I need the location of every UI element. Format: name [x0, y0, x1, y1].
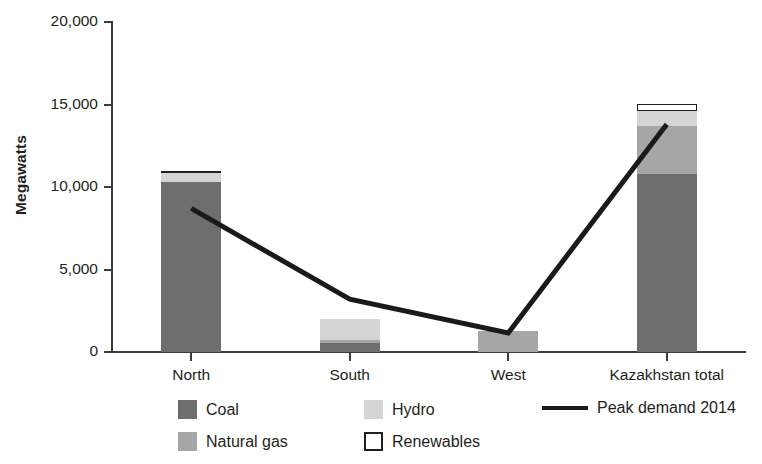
legend-swatch-hydro-icon: [364, 400, 383, 419]
legend-item-natural-gas: Natural gas: [178, 432, 288, 451]
peak-demand-line: [191, 124, 667, 333]
legend-item-peak-demand: Peak demand 2014: [542, 400, 736, 416]
legend-label-natural-gas: Natural gas: [206, 434, 288, 450]
y-axis-title: Megawatts: [12, 110, 30, 240]
bar-segment-renewables: [161, 171, 221, 173]
legend-label-hydro: Hydro: [392, 402, 435, 418]
bar-segment-natural-gas: [320, 340, 380, 343]
bar-segment-hydro: [637, 111, 697, 126]
y-axis-tick-mark: [104, 269, 113, 271]
bar-segment-hydro: [161, 173, 221, 182]
y-axis-tick-mark: [104, 186, 113, 188]
legend-label-coal: Coal: [206, 402, 239, 418]
legend-item-coal: Coal: [178, 400, 239, 419]
legend-item-hydro: Hydro: [364, 400, 435, 419]
legend-swatch-renewables-icon: [364, 432, 383, 451]
legend-swatch-natural-gas-icon: [178, 432, 197, 451]
x-axis-tick-mark: [190, 352, 192, 361]
legend-line-peak-demand-icon: [542, 406, 588, 410]
x-axis-tick-mark: [507, 352, 509, 361]
bar-segment-coal: [637, 174, 697, 352]
bar-segment-natural-gas: [478, 331, 538, 352]
legend-label-peak-demand: Peak demand 2014: [597, 400, 736, 416]
chart-container: Megawatts 20,00015,00010,0005,0000 North…: [0, 0, 762, 464]
y-axis-tick-label: 15,000: [51, 95, 98, 113]
bar-segment-coal: [161, 182, 221, 352]
bar-segment-natural-gas: [637, 126, 697, 174]
bar-stack: [637, 22, 697, 352]
chart-legend: Coal Natural gas Hydro Renewables Peak d…: [178, 398, 738, 462]
legend-item-renewables: Renewables: [364, 432, 480, 451]
legend-label-renewables: Renewables: [392, 434, 480, 450]
y-axis-tick-mark: [104, 21, 113, 23]
y-axis-tick-label: 20,000: [51, 12, 98, 30]
y-axis-tick-mark: [104, 104, 113, 106]
bar-stack: [320, 22, 380, 352]
x-axis-tick-label: Kazakhstan total: [567, 366, 762, 384]
bar-stack: [161, 22, 221, 352]
bar-stack: [478, 22, 538, 352]
y-axis-tick-label: 0: [89, 342, 98, 360]
legend-swatch-coal-icon: [178, 400, 197, 419]
y-axis-tick-mark: [104, 351, 113, 353]
y-axis-tick-label: 10,000: [51, 177, 98, 195]
bar-segment-coal: [320, 343, 380, 352]
y-axis-tick-label: 5,000: [59, 260, 98, 278]
x-axis-tick-mark: [666, 352, 668, 361]
bar-segment-renewables: [637, 104, 697, 111]
x-axis-tick-mark: [349, 352, 351, 361]
bar-segment-hydro: [320, 319, 380, 340]
